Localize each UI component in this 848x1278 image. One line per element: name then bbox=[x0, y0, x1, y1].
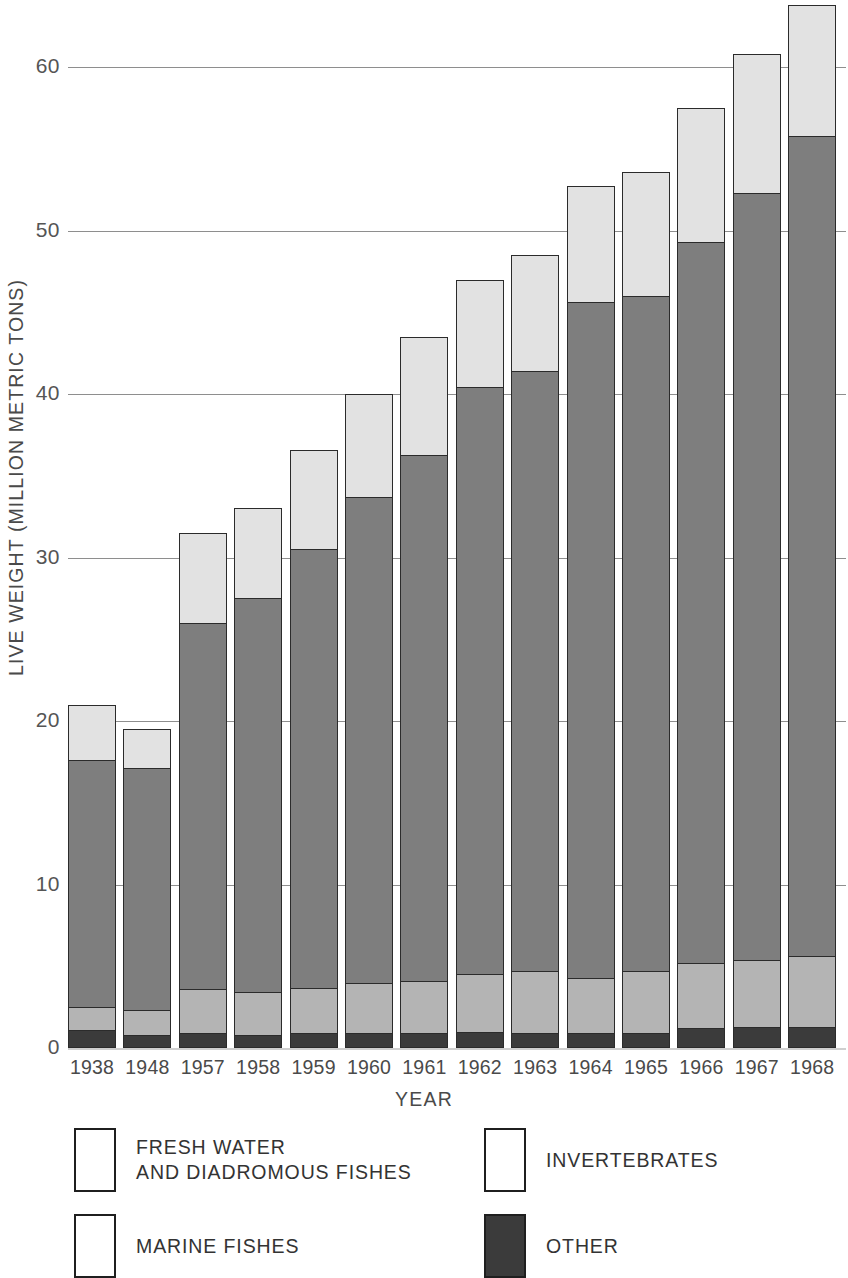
y-axis-tick-label: 60 bbox=[14, 54, 60, 78]
bar-segment-fresh-water bbox=[788, 956, 836, 1026]
bar-segment-marine-fishes bbox=[290, 549, 338, 987]
bar-segment-marine-fishes bbox=[567, 302, 615, 977]
legend-item-other[interactable]: OTHER bbox=[484, 1214, 619, 1278]
bar-segment-marine-fishes bbox=[733, 193, 781, 960]
bar-segment-invertebrates bbox=[622, 172, 670, 296]
bar-segment-invertebrates bbox=[511, 255, 559, 371]
y-axis-tick-label: 20 bbox=[14, 708, 60, 732]
bar-segment-fresh-water bbox=[179, 989, 227, 1033]
bar-segment-fresh-water bbox=[345, 983, 393, 1034]
bar-segment-fresh-water bbox=[733, 960, 781, 1027]
legend-item-label: FRESH WATER AND DIADROMOUS FISHES bbox=[136, 1135, 412, 1185]
bar[interactable] bbox=[511, 255, 559, 1048]
bar-segment-fresh-water bbox=[234, 992, 282, 1035]
legend-swatch-icon bbox=[74, 1214, 116, 1278]
bar-segment-fresh-water bbox=[400, 981, 448, 1033]
bar-segment-invertebrates bbox=[123, 729, 171, 768]
bar-segment-other bbox=[733, 1027, 781, 1048]
legend-swatch-icon bbox=[74, 1128, 116, 1192]
legend-item-label: INVERTEBRATES bbox=[546, 1148, 718, 1173]
bar-segment-invertebrates bbox=[345, 394, 393, 497]
bar-segment-marine-fishes bbox=[456, 387, 504, 974]
bar-segment-invertebrates bbox=[400, 337, 448, 455]
legend-item-marine-fishes[interactable]: MARINE FISHES bbox=[74, 1214, 299, 1278]
bar-segment-marine-fishes bbox=[622, 296, 670, 971]
x-axis-title: YEAR bbox=[0, 1088, 848, 1111]
bar[interactable] bbox=[179, 533, 227, 1048]
bar-segment-invertebrates bbox=[788, 5, 836, 136]
bar[interactable] bbox=[345, 394, 393, 1048]
bar-segment-fresh-water bbox=[123, 1010, 171, 1035]
y-axis-title: LIVE WEIGHT (MILLION METRIC TONS) bbox=[5, 158, 28, 798]
bar[interactable] bbox=[622, 172, 670, 1048]
bar-segment-marine-fishes bbox=[123, 768, 171, 1010]
bar-segment-other bbox=[511, 1033, 559, 1048]
bar[interactable] bbox=[733, 54, 781, 1048]
y-axis-tick-label: 50 bbox=[14, 218, 60, 242]
bar-segment-fresh-water bbox=[622, 971, 670, 1033]
bar-segment-other bbox=[788, 1027, 836, 1048]
bar[interactable] bbox=[456, 280, 504, 1048]
bar[interactable] bbox=[234, 508, 282, 1048]
bar-segment-invertebrates bbox=[290, 450, 338, 550]
bar-segment-invertebrates bbox=[68, 705, 116, 761]
gridline bbox=[68, 67, 846, 68]
bar-segment-fresh-water bbox=[68, 1007, 116, 1030]
bar-segment-other bbox=[345, 1033, 393, 1048]
bar-segment-other bbox=[677, 1028, 725, 1048]
plot-area bbox=[68, 0, 846, 1048]
bar[interactable] bbox=[290, 450, 338, 1048]
bar-segment-other bbox=[123, 1035, 171, 1048]
gridline bbox=[68, 231, 846, 232]
bar-segment-invertebrates bbox=[179, 533, 227, 623]
y-axis-tick-label: 10 bbox=[14, 872, 60, 896]
bar-segment-marine-fishes bbox=[788, 136, 836, 957]
bar-segment-fresh-water bbox=[677, 963, 725, 1028]
bar-segment-marine-fishes bbox=[677, 242, 725, 963]
bar-segment-other bbox=[290, 1033, 338, 1048]
y-axis-tick-label: 30 bbox=[14, 545, 60, 569]
bar-segment-other bbox=[179, 1033, 227, 1048]
bar-segment-invertebrates bbox=[234, 508, 282, 598]
bar[interactable] bbox=[400, 337, 448, 1048]
bar-segment-invertebrates bbox=[733, 54, 781, 193]
legend-swatch-icon bbox=[484, 1214, 526, 1278]
bar-segment-fresh-water bbox=[456, 974, 504, 1031]
bar-segment-marine-fishes bbox=[511, 371, 559, 971]
axis-baseline bbox=[68, 1048, 846, 1050]
y-axis-tick-label: 40 bbox=[14, 381, 60, 405]
x-axis-tick-label: 1968 bbox=[779, 1056, 845, 1079]
bar-segment-marine-fishes bbox=[68, 760, 116, 1007]
bar-segment-marine-fishes bbox=[400, 455, 448, 981]
bar-segment-marine-fishes bbox=[179, 623, 227, 989]
bar[interactable] bbox=[123, 729, 171, 1048]
bar-segment-invertebrates bbox=[567, 186, 615, 302]
legend-item-invertebrates[interactable]: INVERTEBRATES bbox=[484, 1128, 718, 1192]
bar[interactable] bbox=[68, 705, 116, 1048]
legend-swatch-icon bbox=[484, 1128, 526, 1192]
bar-segment-fresh-water bbox=[511, 971, 559, 1033]
bar[interactable] bbox=[567, 186, 615, 1048]
y-axis-tick-label: 0 bbox=[14, 1035, 60, 1059]
legend-item-label: MARINE FISHES bbox=[136, 1234, 299, 1259]
bar-segment-marine-fishes bbox=[234, 598, 282, 992]
bar-segment-invertebrates bbox=[456, 280, 504, 388]
bar-segment-other bbox=[622, 1033, 670, 1048]
chart-legend: FRESH WATER AND DIADROMOUS FISHES INVERT… bbox=[74, 1128, 834, 1246]
bar-segment-marine-fishes bbox=[345, 497, 393, 983]
legend-item-label: OTHER bbox=[546, 1234, 619, 1259]
bar-segment-invertebrates bbox=[677, 108, 725, 242]
bar[interactable] bbox=[677, 108, 725, 1048]
bar-segment-other bbox=[400, 1033, 448, 1048]
bar[interactable] bbox=[788, 5, 836, 1048]
bar-segment-other bbox=[567, 1033, 615, 1048]
legend-item-fresh-water[interactable]: FRESH WATER AND DIADROMOUS FISHES bbox=[74, 1128, 412, 1192]
bar-segment-fresh-water bbox=[290, 988, 338, 1034]
bar-segment-other bbox=[68, 1030, 116, 1048]
bar-segment-other bbox=[234, 1035, 282, 1048]
bar-segment-fresh-water bbox=[567, 978, 615, 1034]
bar-segment-other bbox=[456, 1032, 504, 1048]
